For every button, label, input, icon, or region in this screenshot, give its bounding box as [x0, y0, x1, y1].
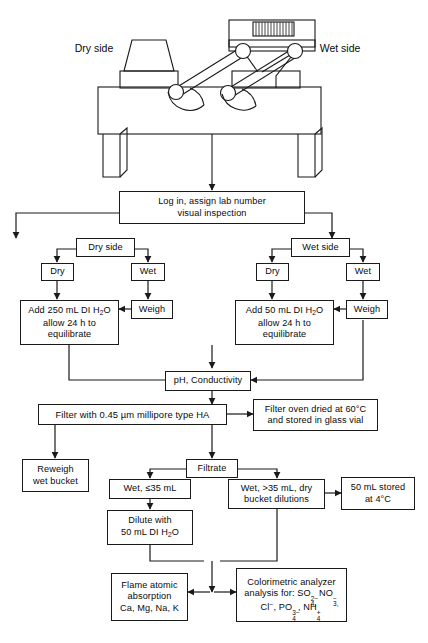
- node-50ml-stored-line2: at 4°C: [365, 494, 391, 505]
- node-wet-le-35ml-label: Wet, ≤35 mL: [124, 483, 177, 494]
- conn-wet-gt35-down: [220, 508, 277, 561]
- node-weigh-right-label: Weigh: [354, 304, 380, 315]
- node-reweigh-line1: Reweigh: [37, 464, 73, 475]
- node-login[interactable]: Log in, assign lab number visual inspect…: [119, 191, 305, 224]
- node-weigh-left[interactable]: Weigh: [131, 300, 173, 319]
- node-add-50ml-line2: allow 24 h to: [258, 318, 311, 329]
- node-50ml-stored-line1: 50 mL stored: [351, 482, 405, 493]
- node-wet-gt-35ml[interactable]: Wet, >35 mL, dry bucket dilutions: [228, 479, 325, 509]
- node-add-250ml-line1: Add 250 mL DI H2O: [28, 305, 111, 318]
- node-ph-conductivity-label: pH, Conductivity: [174, 375, 243, 386]
- dry-side-label-line2: side: [94, 42, 113, 54]
- conn-wetside-split-right: [350, 249, 363, 262]
- node-add-50ml-line1: Add 50 mL DI H2O: [246, 305, 323, 318]
- node-wet-side-wet-label: Wet: [355, 266, 371, 277]
- node-dry-side-dry-label: Dry: [50, 266, 65, 277]
- dry-side-label-line1: Dry: [75, 42, 91, 54]
- node-add-250ml[interactable]: Add 250 mL DI H2O allow 24 h to equilibr…: [20, 300, 119, 345]
- node-dry-side-dry[interactable]: Dry: [41, 263, 74, 281]
- node-filter-oven-dried[interactable]: Filter oven dried at 60°C and stored in …: [253, 399, 378, 431]
- node-colorimetric-analyzer[interactable]: Colorimetric analyzer analysis for: SO2−…: [236, 568, 347, 622]
- node-add-50ml-line3: equilibrate: [263, 329, 307, 340]
- node-weigh-right[interactable]: Weigh: [346, 300, 388, 319]
- node-dry-side[interactable]: Dry side: [76, 238, 135, 257]
- node-wet-le-35ml[interactable]: Wet, ≤35 mL: [109, 479, 191, 499]
- node-dry-side-wet[interactable]: Wet: [131, 263, 165, 281]
- node-filtrate-label: Filtrate: [198, 463, 227, 474]
- node-add-50ml[interactable]: Add 50 mL DI H2O allow 24 h to equilibra…: [235, 300, 334, 345]
- node-add-250ml-line2: allow 24 h to: [43, 318, 96, 329]
- node-weigh-left-label: Weigh: [139, 304, 165, 315]
- wet-side-illustration-label: Wet side: [318, 42, 362, 55]
- node-filter-label: Filter with 0.45 µm millipore type HA: [56, 409, 210, 420]
- node-reweigh-wet-bucket[interactable]: Reweigh wet bucket: [22, 459, 89, 492]
- node-filtrate[interactable]: Filtrate: [186, 459, 238, 478]
- node-wet-gt-35ml-line2: bucket dilutions: [244, 494, 309, 505]
- node-dry-side-wet-label: Wet: [140, 266, 156, 277]
- conn-login-to-drygroup: [16, 213, 119, 238]
- conn-login-to-wetgroup: [305, 213, 332, 238]
- node-login-line1: Log in, assign lab number: [158, 196, 266, 207]
- conn-add250-to-ph: [69, 345, 178, 380]
- node-filter-oven-line1: Filter oven dried at 60°C: [265, 404, 367, 415]
- conn-filtrate-to-wet-le35: [150, 469, 186, 478]
- node-dilute-line1: Dilute with: [128, 515, 171, 526]
- conn-dryside-split-right: [135, 249, 148, 262]
- node-flame-line1: Flame atomic: [121, 580, 177, 591]
- conn-dilute-down: [150, 545, 204, 561]
- flowchart-figure: Dry side Wet side: [0, 0, 428, 643]
- conn-filtrate-to-wet-gt35: [238, 469, 277, 478]
- node-wet-side[interactable]: Wet side: [291, 238, 350, 257]
- node-reweigh-line2: wet bucket: [33, 476, 78, 487]
- dry-side-illustration-label: Dry side: [74, 42, 114, 55]
- wet-side-label-line1: Wet: [320, 42, 338, 54]
- node-50ml-stored[interactable]: 50 mL stored at 4°C: [341, 477, 415, 510]
- node-colorimetric-line1: Colorimetric analyzer: [247, 577, 335, 588]
- node-flame-line3: Ca, Mg, Na, K: [120, 603, 179, 614]
- node-dry-side-label: Dry side: [88, 242, 123, 253]
- node-filter[interactable]: Filter with 0.45 µm millipore type HA: [38, 404, 227, 425]
- node-wet-side-dry-label: Dry: [265, 266, 280, 277]
- node-add-250ml-line3: equilibrate: [48, 329, 92, 340]
- node-flame-line2: absorption: [128, 591, 172, 602]
- conn-wetside-split-left: [272, 249, 291, 262]
- node-wet-side-label: Wet side: [302, 242, 338, 253]
- conn-dryside-split-left: [57, 249, 76, 262]
- node-dilute-line2: 50 mL DI H2O: [121, 527, 179, 540]
- node-flame-atomic-absorption[interactable]: Flame atomic absorption Ca, Mg, Na, K: [111, 573, 188, 621]
- wet-side-label-line2: side: [341, 42, 360, 54]
- node-wet-gt-35ml-line1: Wet, >35 mL, dry: [241, 483, 313, 494]
- node-ph-conductivity[interactable]: pH, Conductivity: [165, 371, 251, 391]
- node-login-line2: visual inspection: [177, 208, 246, 219]
- node-wet-side-dry[interactable]: Dry: [256, 263, 289, 281]
- node-dilute[interactable]: Dilute with 50 mL DI H2O: [107, 510, 193, 545]
- node-filter-oven-line2: and stored in glass vial: [268, 415, 364, 426]
- node-wet-side-wet[interactable]: Wet: [346, 263, 380, 281]
- node-colorimetric-line2: analysis for: SO2−4, NO−3,: [244, 588, 339, 599]
